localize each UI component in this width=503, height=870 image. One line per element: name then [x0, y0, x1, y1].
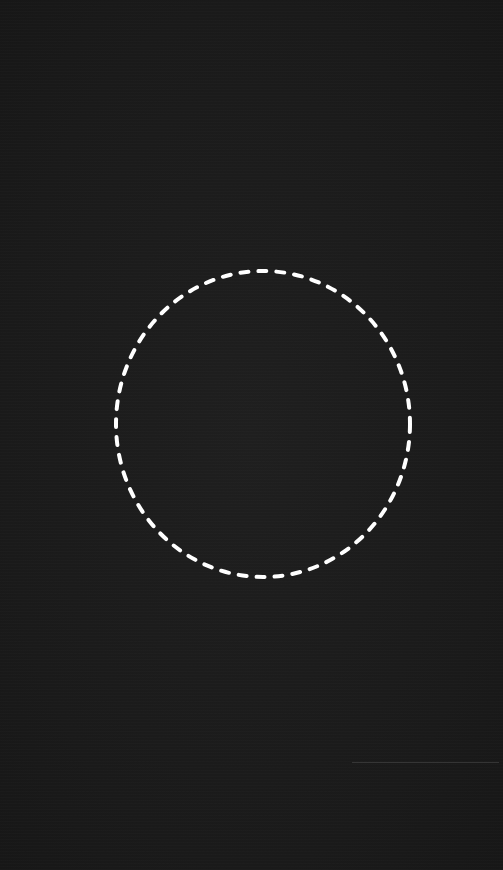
divider-line [352, 762, 499, 763]
camera-viewfinder [0, 0, 503, 870]
face-guide-oval [113, 268, 413, 580]
dashed-circle-icon [113, 268, 413, 580]
